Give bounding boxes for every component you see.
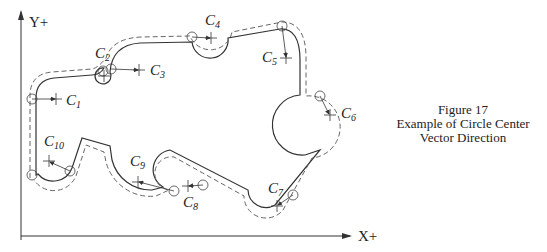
tool-path: [30, 22, 340, 218]
label-c4: C4: [205, 12, 220, 30]
label-c6: C6: [341, 105, 356, 123]
center-c8: [182, 180, 203, 192]
label-c2: C2: [95, 45, 110, 63]
label-c8: C8: [183, 194, 198, 212]
label-c1: C1: [66, 92, 81, 110]
y-axis-arrow-icon: [18, 10, 24, 20]
center-c9: [132, 176, 174, 191]
label-c10: C10: [44, 133, 64, 151]
label-c3: C3: [150, 62, 165, 80]
caption-line-3: Vector Direction: [378, 131, 547, 145]
label-c7: C7: [268, 180, 284, 198]
figure-caption: Figure 17 Example of Circle Center Vecto…: [378, 103, 547, 145]
label-c5: C5: [262, 49, 277, 67]
caption-line-2: Example of Circle Center: [378, 117, 547, 131]
caption-line-1: Figure 17: [378, 103, 547, 117]
x-axis-arrow-icon: [342, 233, 352, 239]
x-axis-label: X+: [358, 228, 377, 244]
y-axis-label: Y+: [29, 14, 48, 30]
center-c6: [320, 96, 336, 121]
label-c9: C9: [130, 153, 145, 171]
tangent-points: [27, 21, 325, 200]
